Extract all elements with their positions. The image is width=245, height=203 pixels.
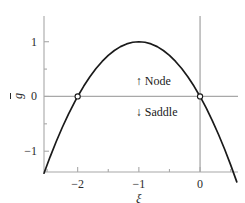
y-tick-label: 1 [31,36,37,48]
arrow-up-icon: ↑ [136,75,142,87]
node-annotation-label: Node [145,75,171,87]
right-root-marker [197,94,202,99]
arrow-down-icon: ↓ [136,106,142,118]
x-tick-label: −1 [132,178,145,190]
node-annotation: ↑ Node [136,75,171,87]
y-tick-label: −1 [24,145,37,157]
y-tick-label: 0 [31,90,37,102]
chart-figure: −2 −1 0 1 0 −1 ξ g ↑ Node ↓ Saddle [0,0,245,203]
axis-lines [44,16,238,172]
x-tick-label: 0 [197,178,203,190]
x-tick-label: −2 [71,178,84,190]
saddle-annotation-label: Saddle [145,106,178,118]
saddle-annotation: ↓ Saddle [136,106,178,118]
y-axis-title-text: g [11,93,25,99]
x-axis-title: ξ [136,192,142,203]
left-root-marker [75,94,80,99]
y-axis-title: g [12,93,24,99]
